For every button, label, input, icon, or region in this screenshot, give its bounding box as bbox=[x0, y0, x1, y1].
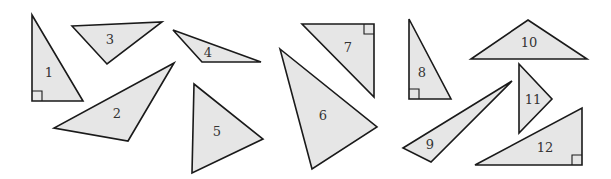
triangle-label: 9 bbox=[426, 137, 434, 152]
triangle-label: 2 bbox=[113, 106, 121, 121]
triangle-10: 10 bbox=[471, 20, 587, 59]
triangle-4: 4 bbox=[173, 30, 261, 62]
triangle-8: 8 bbox=[409, 19, 451, 99]
triangle-3: 3 bbox=[72, 22, 162, 64]
triangle-label: 7 bbox=[344, 40, 352, 55]
triangle-label: 4 bbox=[204, 45, 212, 60]
triangle-shape bbox=[72, 22, 162, 64]
triangle-11: 11 bbox=[519, 64, 552, 133]
triangle-label: 1 bbox=[45, 65, 53, 80]
triangle-label: 11 bbox=[525, 92, 542, 107]
triangle-label: 5 bbox=[213, 124, 221, 139]
triangle-2: 2 bbox=[54, 63, 174, 141]
triangle-shape bbox=[409, 19, 451, 99]
triangle-label: 6 bbox=[319, 108, 327, 123]
triangle-label: 3 bbox=[106, 32, 114, 47]
triangle-label: 10 bbox=[521, 35, 538, 50]
triangle-5: 5 bbox=[192, 84, 263, 173]
triangle-shape bbox=[173, 30, 261, 62]
triangle-label: 12 bbox=[537, 140, 554, 155]
triangle-shape bbox=[192, 84, 263, 173]
triangle-label: 8 bbox=[418, 65, 426, 80]
triangles-svg: 123456789101112 bbox=[0, 0, 611, 179]
triangle-shape bbox=[54, 63, 174, 141]
triangles-figure: 123456789101112 bbox=[0, 0, 611, 179]
